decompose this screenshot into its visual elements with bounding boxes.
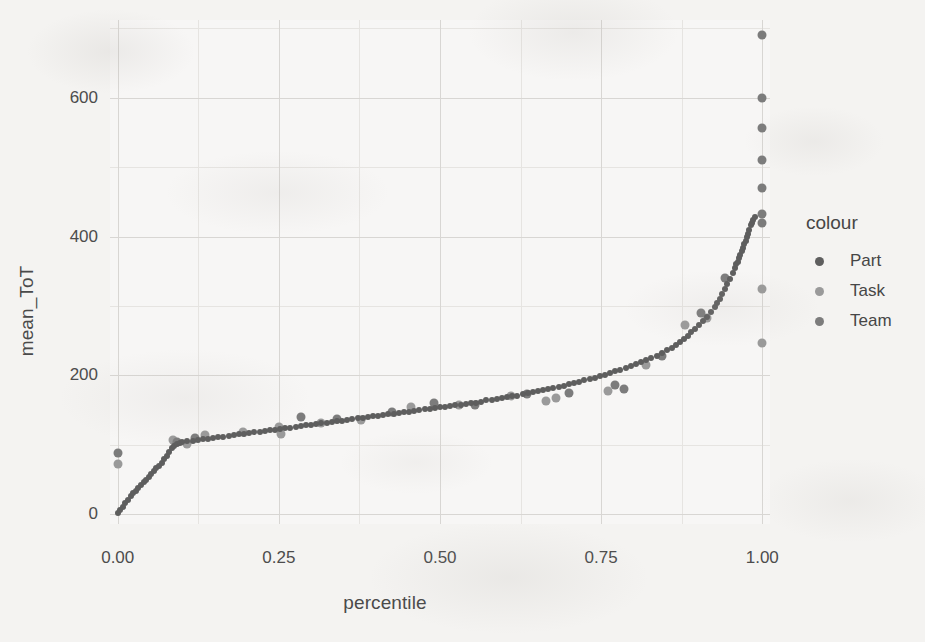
data-point-team bbox=[758, 93, 767, 102]
chart-plot-area: percentile mean_ToT 0.000.250.500.751.00… bbox=[0, 0, 925, 642]
x-tick-label: 0.25 bbox=[262, 548, 295, 568]
data-point-team bbox=[619, 384, 628, 393]
data-point-task bbox=[680, 321, 689, 330]
data-point-team bbox=[758, 124, 767, 133]
legend-item-team[interactable]: Team bbox=[806, 306, 921, 336]
data-point-part bbox=[752, 214, 758, 220]
x-tick-label: 0.00 bbox=[101, 548, 134, 568]
y-axis-title: mean_ToT bbox=[16, 231, 38, 391]
x-tick-label: 0.50 bbox=[423, 548, 456, 568]
gridline-major-vertical bbox=[279, 20, 280, 524]
y-tick-label: 600 bbox=[52, 88, 98, 108]
legend-item-part[interactable]: Part bbox=[806, 246, 921, 276]
data-point-team bbox=[297, 413, 306, 422]
legend-dot-icon bbox=[815, 257, 824, 266]
legend-dot-icon bbox=[815, 287, 824, 296]
data-point-task bbox=[758, 338, 767, 347]
y-tick-label: 200 bbox=[52, 365, 98, 385]
legend-key-icon bbox=[806, 287, 832, 296]
gridline-major-vertical bbox=[440, 20, 441, 524]
gridline-major-horizontal bbox=[110, 375, 770, 376]
gridline-major-vertical bbox=[601, 20, 602, 524]
gridline-minor-vertical bbox=[198, 20, 199, 524]
legend-key-icon bbox=[806, 317, 832, 326]
legend-dot-icon bbox=[815, 317, 824, 326]
gridline-minor-vertical bbox=[682, 20, 683, 524]
data-point-task bbox=[113, 459, 122, 468]
x-axis-title: percentile bbox=[0, 592, 770, 614]
data-point-team bbox=[758, 184, 767, 193]
data-point-part bbox=[730, 270, 736, 276]
gridline-minor-vertical bbox=[521, 20, 522, 524]
gridline-major-horizontal bbox=[110, 514, 770, 515]
gridline-minor-vertical bbox=[359, 20, 360, 524]
data-point-task bbox=[552, 393, 561, 402]
plot-panel bbox=[110, 20, 770, 524]
data-point-team bbox=[758, 218, 767, 227]
legend-title: colour bbox=[806, 212, 921, 234]
legend-item-label: Task bbox=[850, 281, 885, 301]
y-tick-label: 0 bbox=[52, 504, 98, 524]
data-point-part bbox=[727, 276, 733, 282]
data-point-team bbox=[564, 389, 573, 398]
legend-item-label: Team bbox=[850, 311, 892, 331]
data-point-team bbox=[113, 449, 122, 458]
legend-item-label: Part bbox=[850, 251, 881, 271]
y-tick-label: 400 bbox=[52, 227, 98, 247]
gridline-major-horizontal bbox=[110, 98, 770, 99]
data-point-task bbox=[758, 284, 767, 293]
x-tick-label: 0.75 bbox=[585, 548, 618, 568]
data-point-team bbox=[758, 31, 767, 40]
legend-key-icon bbox=[806, 257, 832, 266]
legend-item-task[interactable]: Task bbox=[806, 276, 921, 306]
data-point-part bbox=[724, 281, 730, 287]
data-point-task bbox=[542, 397, 551, 406]
gridline-major-horizontal bbox=[110, 237, 770, 238]
legend: colour PartTaskTeam bbox=[806, 212, 921, 336]
data-point-team bbox=[758, 156, 767, 165]
x-tick-label: 1.00 bbox=[746, 548, 779, 568]
legend-items: PartTaskTeam bbox=[806, 246, 921, 336]
